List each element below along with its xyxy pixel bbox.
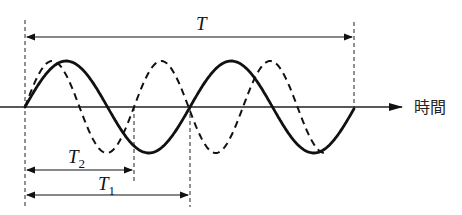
label-T2: T2 xyxy=(68,146,85,171)
waveform-diagram: T T2 T1 時間 xyxy=(0,0,462,215)
label-T: T xyxy=(196,13,208,34)
time-axis-label: 時間 xyxy=(414,98,446,117)
label-T1: T1 xyxy=(98,173,115,198)
